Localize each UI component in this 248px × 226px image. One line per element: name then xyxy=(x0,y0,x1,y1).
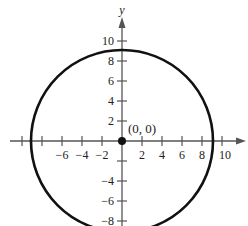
y-tick-label: 2 xyxy=(108,114,114,128)
x-tick-label: 10 xyxy=(219,148,231,162)
y-tick-label: −6 xyxy=(101,194,114,208)
x-axis-arrow-icon xyxy=(236,138,246,145)
y-axis-label: y xyxy=(118,3,125,17)
x-tick-label: 8 xyxy=(199,148,205,162)
origin-point xyxy=(118,137,126,145)
circle-chart: −6 −4 −2 2 4 6 8 10 y 10 8 6 4 2 −4 −6 −… xyxy=(0,0,248,226)
x-tick-label: −2 xyxy=(96,148,109,162)
y-tick-label: −4 xyxy=(101,174,114,188)
x-tick-label: −4 xyxy=(76,148,89,162)
y-axis: y 10 8 6 4 2 −4 −6 −8 xyxy=(101,3,127,226)
y-tick-label: 8 xyxy=(108,54,114,68)
origin-label: (0, 0) xyxy=(128,121,156,136)
x-tick-label: 4 xyxy=(159,148,165,162)
y-tick-label: 10 xyxy=(102,34,114,48)
x-tick-label: −6 xyxy=(56,148,69,162)
y-axis-arrow-icon xyxy=(119,17,126,28)
x-tick-label: 2 xyxy=(139,148,145,162)
y-tick-label: 6 xyxy=(108,74,114,88)
x-tick-label: 6 xyxy=(179,148,185,162)
y-tick-label: 4 xyxy=(108,94,114,108)
y-tick-label: −8 xyxy=(101,214,114,226)
